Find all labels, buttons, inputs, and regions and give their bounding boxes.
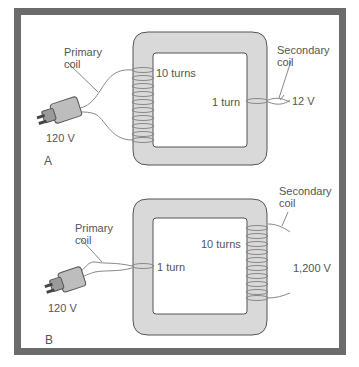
panel-label-b: B — [45, 333, 53, 347]
label-line: Secondary — [279, 185, 332, 197]
output-voltage-b: 1,200 V — [293, 262, 331, 274]
input-voltage-b: 120 V — [48, 302, 77, 314]
label-line: Primary — [75, 222, 113, 234]
label-line: coil — [277, 56, 330, 68]
panel-label-a: A — [44, 154, 52, 168]
secondary-coil-label-a: Secondary coil — [277, 44, 330, 68]
primary-turns-a: 10 turns — [156, 67, 196, 79]
label-line: coil — [75, 234, 113, 246]
secondary-turns-a: 1 turn — [212, 96, 240, 108]
primary-coil-label-a: Primary coil — [64, 46, 102, 70]
label-line: coil — [64, 58, 102, 70]
secondary-turns-b: 10 turns — [201, 238, 241, 250]
transformer-core-a — [133, 32, 267, 165]
primary-coil-label-b: Primary coil — [75, 222, 113, 246]
input-voltage-a: 120 V — [46, 132, 75, 144]
primary-turns-b: 1 turn — [157, 261, 185, 273]
plug-icon — [37, 96, 83, 125]
plug-icon — [44, 266, 86, 294]
label-line: Primary — [64, 46, 102, 58]
output-voltage-a: 12 V — [292, 95, 315, 107]
label-line: coil — [279, 197, 332, 209]
secondary-coil-label-b: Secondary coil — [279, 185, 332, 209]
label-line: Secondary — [277, 44, 330, 56]
